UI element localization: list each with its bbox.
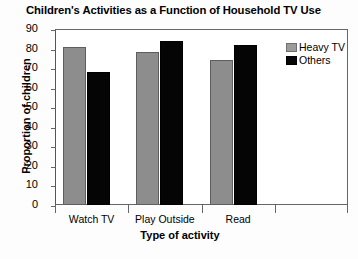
legend: Heavy TVOthers — [286, 41, 348, 67]
legend-swatch-others — [286, 56, 297, 65]
bar-group — [128, 29, 201, 205]
bar-group — [55, 29, 128, 205]
bar-others — [87, 72, 110, 205]
y-tick-label: 10 — [0, 178, 38, 190]
bar-others — [160, 41, 183, 205]
x-category-label: Read — [202, 213, 275, 225]
y-tick-label: 90 — [0, 22, 38, 34]
bar-heavy-tv — [136, 52, 159, 205]
x-category-label: Watch TV — [55, 213, 128, 225]
x-axis-label: Type of activity — [55, 229, 305, 241]
legend-item: Others — [286, 54, 348, 66]
bar-others — [234, 45, 257, 205]
bar-heavy-tv — [210, 60, 233, 205]
legend-swatch-heavy-tv — [286, 43, 297, 52]
x-tick-mark — [202, 205, 203, 213]
y-tick-label: 30 — [0, 139, 38, 151]
y-tick-label: 70 — [0, 61, 38, 73]
legend-item: Heavy TV — [286, 41, 348, 53]
chart-page: Children's Activities as a Function of H… — [0, 0, 358, 259]
y-tick-label: 40 — [0, 120, 38, 132]
chart-title: Children's Activities as a Function of H… — [26, 4, 348, 16]
x-category-label: Play Outside — [128, 213, 201, 225]
y-tick-label: 50 — [0, 100, 38, 112]
x-tick-mark — [275, 205, 276, 213]
y-tick-label: 0 — [0, 198, 38, 210]
y-tick-label: 80 — [0, 42, 38, 54]
bar-group — [202, 29, 275, 205]
x-tick-mark — [128, 205, 129, 213]
y-tick-label: 60 — [0, 81, 38, 93]
legend-label: Others — [299, 54, 331, 66]
bar-heavy-tv — [63, 47, 86, 205]
legend-label: Heavy TV — [299, 41, 345, 53]
x-tick-mark — [55, 205, 56, 213]
x-tick-mark — [347, 205, 348, 213]
y-tick-label: 20 — [0, 159, 38, 171]
